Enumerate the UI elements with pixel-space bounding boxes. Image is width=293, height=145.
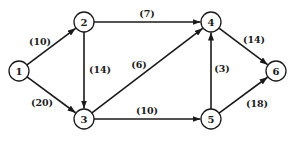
network-diagram: 123456 (10)(20)(14)(7)(6)(10)(3)(14)(18) [0, 0, 293, 145]
node-6: 6 [266, 61, 286, 81]
node-label: 2 [81, 17, 88, 28]
edge-weight-label: (6) [131, 59, 147, 70]
edge-weight-label: (20) [31, 97, 53, 108]
edge-weight-label: (3) [214, 63, 230, 74]
edge-weight-label: (7) [139, 8, 155, 19]
edge-weight-label: (10) [136, 105, 158, 116]
node-5: 5 [201, 109, 221, 129]
node-label: 4 [208, 17, 215, 28]
node-4: 4 [201, 12, 221, 32]
edge-1-2 [27, 28, 76, 65]
node-3: 3 [74, 109, 94, 129]
node-label: 1 [16, 66, 23, 77]
edge-weight-label: (14) [89, 64, 111, 75]
node-label: 5 [208, 114, 215, 125]
edge-weight-label: (14) [243, 34, 265, 45]
node-label: 6 [273, 66, 280, 77]
edge-weight-label: (10) [29, 36, 51, 47]
node-1: 1 [9, 61, 29, 81]
edge-weight-label: (18) [246, 98, 268, 109]
node-2: 2 [74, 12, 94, 32]
node-label: 3 [81, 114, 88, 125]
edge-labels: (10)(20)(14)(7)(6)(10)(3)(14)(18) [29, 8, 268, 116]
